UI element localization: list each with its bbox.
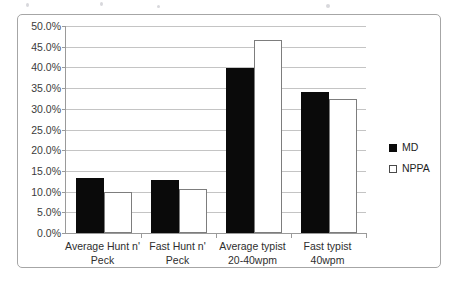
y-axis-tick-label: 15.0%	[31, 166, 61, 177]
bar-group	[291, 26, 366, 233]
y-axis-tick-label: 0.0%	[37, 228, 61, 239]
y-axis-tick-label: 45.0%	[31, 41, 61, 52]
x-axis-category-label: Fast Hunt n'Peck	[140, 240, 215, 267]
bar-md[interactable]	[226, 68, 254, 233]
x-axis-tickmark	[216, 233, 217, 238]
legend-swatch-nppa-icon	[389, 165, 397, 173]
bar-nppa[interactable]	[329, 99, 357, 233]
bar-group	[141, 26, 216, 233]
bar-nppa[interactable]	[104, 192, 132, 233]
x-axis-tickmark	[141, 233, 142, 238]
y-axis-tick-label: 5.0%	[37, 207, 61, 218]
legend-item-md[interactable]: MD	[389, 137, 439, 158]
y-axis-tickmark	[62, 233, 66, 234]
x-axis-category-label-line: Fast Hunt n'	[140, 240, 215, 254]
chart-legend: MD NPPA	[389, 137, 439, 179]
x-axis-category-label: Average typist20-40wpm	[215, 240, 290, 267]
scan-artifacts	[0, 0, 459, 12]
legend-label-md: MD	[402, 142, 418, 153]
bar-md[interactable]	[76, 178, 104, 233]
legend-label-nppa: NPPA	[402, 163, 430, 174]
x-axis-category-label: Fast typist40wpm	[290, 240, 365, 267]
bar-nppa[interactable]	[254, 40, 282, 233]
bar-md[interactable]	[151, 180, 179, 233]
x-axis-category-labels: Average Hunt n'PeckFast Hunt n'PeckAvera…	[65, 240, 366, 274]
y-axis-tick-label: 20.0%	[31, 145, 61, 156]
y-axis-tick-label: 50.0%	[31, 21, 61, 32]
bar-md[interactable]	[301, 92, 329, 233]
legend-swatch-md-icon	[389, 144, 397, 152]
bar-group	[66, 26, 141, 233]
x-axis-category-label-line: Average Hunt n'	[65, 240, 140, 254]
bar-series-container	[66, 26, 366, 233]
x-axis-category-label-line: Fast typist	[290, 240, 365, 254]
x-axis-category-label-line: 40wpm	[290, 254, 365, 268]
bar-nppa[interactable]	[179, 189, 207, 233]
legend-item-nppa[interactable]: NPPA	[389, 158, 439, 179]
chart-frame: 50.0%45.0%40.0%35.0%30.0%25.0%20.0%15.0%…	[17, 14, 441, 268]
y-axis-tick-label: 10.0%	[31, 186, 61, 197]
y-axis-tick-label: 35.0%	[31, 83, 61, 94]
x-axis-category-label: Average Hunt n'Peck	[65, 240, 140, 267]
x-axis-category-label-line: Peck	[65, 254, 140, 268]
y-axis-tick-label: 40.0%	[31, 62, 61, 73]
x-axis-tickmark	[291, 233, 292, 238]
plot-area: 50.0%45.0%40.0%35.0%30.0%25.0%20.0%15.0%…	[65, 26, 366, 234]
x-axis-tickmark	[366, 233, 367, 238]
y-axis-tick-label: 30.0%	[31, 104, 61, 115]
y-axis-tick-label: 25.0%	[31, 124, 61, 135]
bar-group	[216, 26, 291, 233]
x-axis-category-label-line: Average typist	[215, 240, 290, 254]
x-axis-category-label-line: 20-40wpm	[215, 254, 290, 268]
x-axis-category-label-line: Peck	[140, 254, 215, 268]
